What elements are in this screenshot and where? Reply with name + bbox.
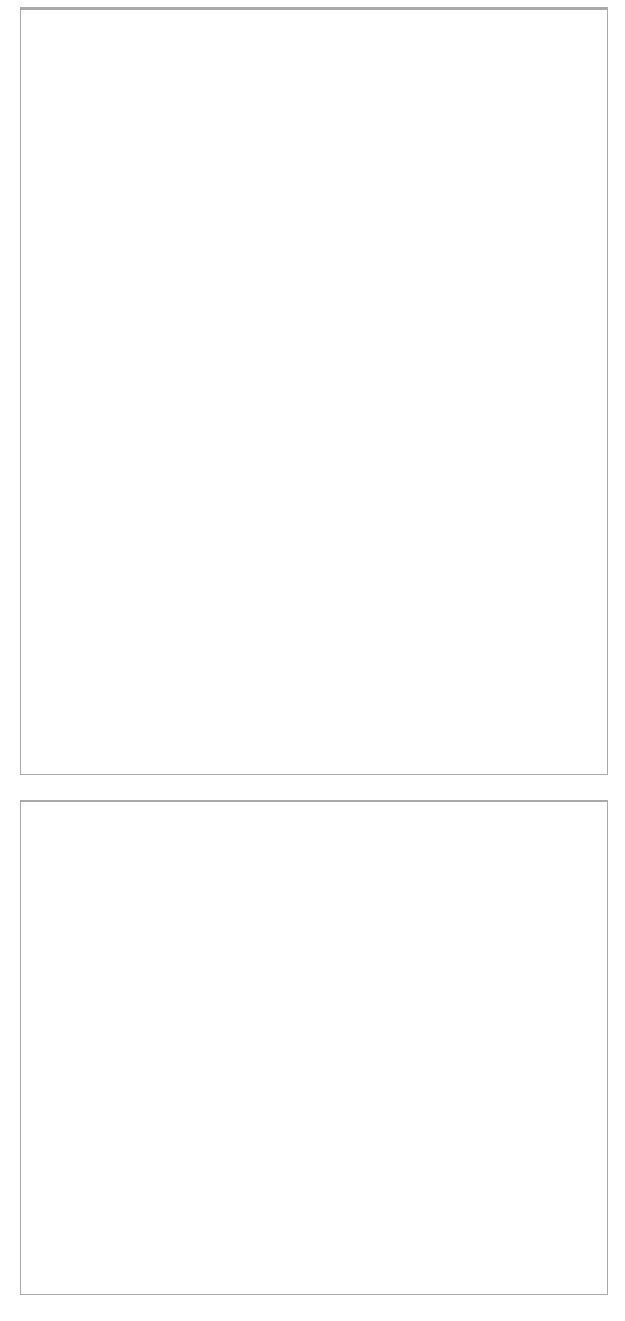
structure-table-bottom: HHHNNOHHHHHNHHHHHHHHHHOHNHHHHHHOHO 27 IC… xyxy=(20,800,608,1295)
table-row: HHHNNOHHHHHNHHHHHHHHHHOHNHHHHHHOHO 27 IC… xyxy=(21,801,607,802)
table-row: HHHNNOHHHHHNHHHHHHHHHHOHNHHHHN+OO-OHO 3 … xyxy=(21,9,607,10)
structure-table-top: HHHNNOHHHHHNHHHHHHHHHHOHNHHHHN+OO-OHO 1 … xyxy=(20,7,608,775)
figure-page: HHHNNOHHHHHNHHHHHHHHHHOHNHHHHN+OO-OHO 1 … xyxy=(0,0,625,1321)
